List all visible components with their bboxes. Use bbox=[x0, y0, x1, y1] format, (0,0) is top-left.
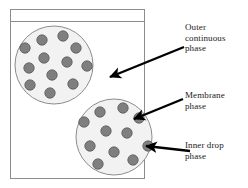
multiple-emulsion-diagram: Outer continuous phase Membrane phase In… bbox=[0, 0, 248, 188]
inner-drop bbox=[45, 88, 55, 98]
inner-drop bbox=[79, 117, 89, 127]
lower-emulsion-globule bbox=[76, 99, 152, 175]
inner-drop bbox=[109, 147, 119, 157]
inner-drop bbox=[68, 79, 78, 89]
label-outer-continuous-phase: Outer continuous phase bbox=[185, 22, 247, 54]
inner-drop bbox=[118, 103, 128, 113]
inner-drop bbox=[82, 61, 92, 71]
inner-drop bbox=[85, 141, 95, 151]
label-inner-drop-phase: Inner drop phase bbox=[185, 140, 247, 161]
inner-drop bbox=[71, 43, 81, 53]
inner-drop bbox=[122, 128, 132, 138]
inner-drop bbox=[128, 155, 138, 165]
inner-drop bbox=[58, 31, 68, 41]
inner-drop bbox=[20, 43, 30, 53]
inner-drop bbox=[24, 63, 34, 73]
inner-drop bbox=[62, 57, 72, 67]
label-membrane-phase: Membrane phase bbox=[185, 90, 247, 111]
inner-drop bbox=[39, 53, 49, 63]
inner-drop bbox=[47, 70, 57, 80]
inner-drop bbox=[25, 80, 35, 90]
inner-drop bbox=[93, 159, 103, 169]
inner-drop bbox=[95, 107, 105, 117]
inner-drop bbox=[37, 35, 47, 45]
inner-drop bbox=[101, 126, 111, 136]
